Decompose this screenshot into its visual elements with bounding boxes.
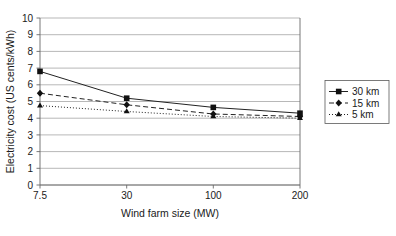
y-tick-marks — [37, 18, 41, 185]
y-tick-label-7: 7 — [27, 63, 33, 74]
series-15-km-marker-0 — [37, 90, 43, 97]
y-tick-label-6: 6 — [27, 79, 33, 90]
legend-label-30-km: 30 km — [352, 86, 379, 97]
series-5-km-marker-1 — [124, 108, 130, 113]
legend-label-15-km: 15 km — [352, 98, 379, 109]
x-tick-marks — [40, 185, 300, 189]
series-15-km-line — [40, 93, 300, 116]
series-30-km-marker-2 — [211, 105, 217, 111]
y-tick-label-5: 5 — [27, 96, 33, 107]
x-tick-labels: 7.5 30 100 200 — [33, 190, 309, 201]
y-tick-label-8: 8 — [27, 46, 33, 57]
chart-figure: 0 1 2 3 4 5 6 7 8 9 10 7.5 30 100 200 Wi… — [0, 0, 396, 236]
x-tick-label-100: 100 — [205, 190, 222, 201]
series-30-km-marker-0 — [37, 69, 43, 75]
gridlines — [40, 18, 300, 185]
series-30-km-marker-3 — [297, 110, 303, 116]
legend-marker-square-icon — [336, 89, 342, 95]
series-30-km-marker-1 — [124, 95, 130, 101]
legend-label-5-km: 5 km — [352, 109, 374, 120]
y-tick-label-10: 10 — [22, 13, 34, 24]
x-tick-label-7-5: 7.5 — [33, 190, 47, 201]
y-tick-label-0: 0 — [27, 180, 33, 191]
chart-legend: 30 km 15 km 5 km — [325, 81, 389, 124]
series-30-km — [37, 69, 303, 116]
y-tick-label-1: 1 — [27, 163, 33, 174]
y-tick-label-4: 4 — [27, 113, 33, 124]
series-5-km-marker-0 — [37, 102, 43, 107]
y-tick-label-9: 9 — [27, 29, 33, 40]
x-axis-title: Wind farm size (MW) — [121, 207, 219, 219]
y-tick-labels: 0 1 2 3 4 5 6 7 8 9 10 — [22, 13, 34, 191]
x-tick-label-30: 30 — [121, 190, 133, 201]
x-tick-label-200: 200 — [292, 190, 309, 201]
series-15-km — [37, 90, 303, 120]
y-tick-label-2: 2 — [27, 146, 33, 157]
series-15-km-marker-1 — [124, 101, 130, 108]
series-30-km-line — [40, 71, 300, 113]
y-axis-title: Electricity cost (US cents/kWh) — [4, 30, 16, 174]
series-5-km-line — [40, 106, 300, 119]
line-chart: 0 1 2 3 4 5 6 7 8 9 10 7.5 30 100 200 Wi… — [0, 0, 396, 236]
y-tick-label-3: 3 — [27, 130, 33, 141]
